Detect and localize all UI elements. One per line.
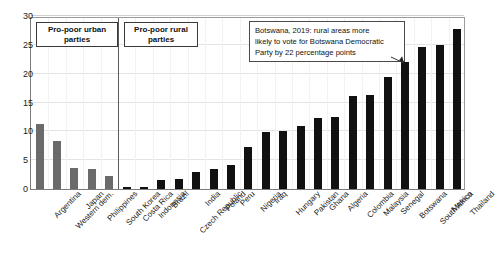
y-axis-tick-label: 15: [23, 98, 27, 107]
bar: [297, 126, 305, 189]
bar: [453, 29, 461, 189]
bar: [210, 169, 218, 189]
y-axis-tick-label: 25: [23, 40, 27, 49]
x-axis-tick-label: Argentina: [53, 190, 83, 220]
bar: [175, 179, 183, 189]
bar: [279, 131, 287, 189]
bar: [53, 141, 61, 189]
bar: [436, 45, 444, 189]
group-label-box: Pro-poor rural parties: [124, 22, 198, 47]
bar: [70, 168, 78, 189]
x-axis-tick-label: Brazil: [170, 190, 190, 210]
bar: [157, 180, 165, 189]
bar: [88, 169, 96, 189]
y-axis-tick-label: 5: [23, 156, 27, 165]
bar: [418, 47, 426, 189]
bar: [36, 124, 44, 189]
bar: [349, 96, 357, 189]
bar: [331, 117, 339, 189]
x-axis-labels: ArgentinaWestern dem.JapanPhilippinesSou…: [30, 190, 465, 254]
bar: [401, 62, 409, 189]
bar: [227, 165, 235, 189]
bar: [192, 172, 200, 189]
bar: [140, 187, 148, 189]
bar: [366, 95, 374, 189]
bar: [105, 176, 113, 189]
group-label-box: Pro-poor urban parties: [36, 22, 118, 47]
bar: [314, 118, 322, 189]
plot-area: 051015202530 Pro-poor urban partiesPro-p…: [30, 17, 465, 190]
bar: [244, 147, 252, 189]
y-axis-tick-label: 20: [23, 69, 27, 78]
annotation-box: Botswana, 2019: rural areas more likely …: [249, 21, 405, 62]
bar: [384, 77, 392, 189]
y-axis-tick-label: 0: [23, 185, 27, 194]
bar: [123, 187, 131, 189]
group-separator: [118, 18, 119, 189]
y-axis-tick-label: 10: [23, 127, 27, 136]
y-axis-tick-label: 30: [23, 12, 27, 21]
bar: [262, 132, 270, 189]
gridline: [31, 15, 464, 16]
